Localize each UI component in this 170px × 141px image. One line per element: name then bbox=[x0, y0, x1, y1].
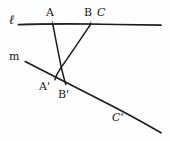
geometry-diagram: ℓ m A B C A' B' C' bbox=[0, 0, 170, 141]
segment-b-to-aprime-stroke bbox=[55, 25, 90, 80]
diagram-drawing-surface bbox=[0, 0, 170, 141]
label-line-l: ℓ bbox=[9, 14, 14, 25]
label-point-a: A bbox=[46, 7, 54, 18]
label-point-b-prime: B' bbox=[58, 89, 69, 100]
segment-a-to-bprime-stroke bbox=[53, 24, 66, 84]
label-point-b: B bbox=[84, 7, 92, 18]
point-a-tick bbox=[52, 22, 53, 28]
label-point-a-prime: A' bbox=[39, 81, 50, 92]
label-line-m: m bbox=[9, 51, 19, 62]
label-point-c-prime: C' bbox=[112, 112, 123, 123]
label-point-c: C bbox=[97, 7, 105, 18]
ink-strokes bbox=[19, 22, 162, 133]
